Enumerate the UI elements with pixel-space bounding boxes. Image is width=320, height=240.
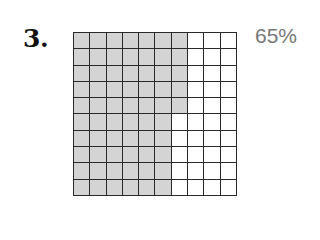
- grid-cell-empty: [172, 180, 188, 196]
- grid-cell-shaded: [155, 180, 171, 196]
- grid-cell-shaded: [139, 147, 155, 163]
- grid-cell-empty: [204, 49, 220, 65]
- grid-cell-empty: [221, 98, 237, 114]
- grid-cell-empty: [204, 66, 220, 82]
- grid-cell-empty: [172, 114, 188, 130]
- grid-cell-shaded: [90, 180, 106, 196]
- grid-cell-shaded: [139, 131, 155, 147]
- grid-cell-shaded: [90, 82, 106, 98]
- grid-cell-shaded: [139, 163, 155, 179]
- grid-cell-empty: [188, 163, 204, 179]
- grid-cell-shaded: [74, 180, 90, 196]
- grid-cell-shaded: [123, 180, 139, 196]
- grid-cell-shaded: [74, 163, 90, 179]
- grid-cell-shaded: [90, 49, 106, 65]
- grid-cell-empty: [221, 180, 237, 196]
- grid-cell-shaded: [74, 66, 90, 82]
- grid-cell-shaded: [139, 98, 155, 114]
- grid-cell-shaded: [139, 49, 155, 65]
- grid-cell-shaded: [107, 114, 123, 130]
- grid-cell-shaded: [107, 82, 123, 98]
- grid-cell-empty: [188, 180, 204, 196]
- grid-cell-shaded: [90, 98, 106, 114]
- grid-cell-shaded: [155, 49, 171, 65]
- grid-cell-empty: [221, 33, 237, 49]
- grid-cell-empty: [188, 82, 204, 98]
- grid-cell-shaded: [155, 147, 171, 163]
- grid-cell-shaded: [74, 114, 90, 130]
- grid-cell-empty: [221, 147, 237, 163]
- grid-cell-shaded: [123, 98, 139, 114]
- grid-cell-shaded: [107, 33, 123, 49]
- grid-cell-empty: [221, 82, 237, 98]
- grid-cell-shaded: [123, 33, 139, 49]
- grid-cell-shaded: [90, 147, 106, 163]
- grid-cell-empty: [221, 114, 237, 130]
- grid-cell-shaded: [123, 147, 139, 163]
- percent-label: 65%: [255, 24, 297, 48]
- grid-cell-shaded: [123, 66, 139, 82]
- grid-cell-shaded: [107, 131, 123, 147]
- grid-cell-shaded: [155, 114, 171, 130]
- grid-cell-empty: [221, 163, 237, 179]
- grid-cell-empty: [188, 49, 204, 65]
- problem-number: 3.: [23, 24, 48, 53]
- grid-cell-shaded: [107, 180, 123, 196]
- grid-cell-empty: [204, 147, 220, 163]
- grid-cell-shaded: [155, 82, 171, 98]
- grid-cell-shaded: [123, 131, 139, 147]
- grid-cell-shaded: [123, 163, 139, 179]
- grid-cell-empty: [204, 114, 220, 130]
- grid-cell-shaded: [123, 82, 139, 98]
- grid-cell-shaded: [155, 131, 171, 147]
- grid-cell-empty: [172, 147, 188, 163]
- grid-cell-empty: [204, 163, 220, 179]
- grid-cell-shaded: [107, 98, 123, 114]
- grid-cell-empty: [188, 33, 204, 49]
- grid-cell-empty: [221, 49, 237, 65]
- grid-cell-shaded: [155, 33, 171, 49]
- grid-cell-empty: [172, 163, 188, 179]
- grid-cell-empty: [204, 82, 220, 98]
- grid-cell-shaded: [155, 98, 171, 114]
- grid-cell-shaded: [90, 114, 106, 130]
- grid-cell-shaded: [172, 82, 188, 98]
- grid-cell-shaded: [90, 66, 106, 82]
- grid-cell-shaded: [74, 33, 90, 49]
- grid-cell-empty: [188, 131, 204, 147]
- grid-cell-shaded: [172, 66, 188, 82]
- grid-cell-empty: [188, 66, 204, 82]
- grid-cell-empty: [221, 131, 237, 147]
- grid-cell-empty: [204, 180, 220, 196]
- grid-cell-shaded: [139, 180, 155, 196]
- grid-cell-shaded: [139, 66, 155, 82]
- grid-cell-shaded: [123, 49, 139, 65]
- grid-cell-empty: [204, 98, 220, 114]
- grid-cell-shaded: [74, 131, 90, 147]
- grid-cell-shaded: [123, 114, 139, 130]
- grid-cell-shaded: [74, 98, 90, 114]
- grid-cell-empty: [204, 33, 220, 49]
- grid-cell-shaded: [107, 147, 123, 163]
- grid-cell-shaded: [139, 114, 155, 130]
- grid-cell-shaded: [155, 163, 171, 179]
- grid-cell-shaded: [90, 33, 106, 49]
- grid-cell-shaded: [172, 98, 188, 114]
- grid-cell-shaded: [74, 49, 90, 65]
- grid-cell-shaded: [107, 66, 123, 82]
- grid-cell-empty: [172, 131, 188, 147]
- grid-cell-shaded: [172, 33, 188, 49]
- grid-cell-shaded: [172, 49, 188, 65]
- grid-cell-empty: [188, 114, 204, 130]
- hundred-grid: [73, 32, 237, 196]
- grid-cell-empty: [221, 66, 237, 82]
- grid-cell-empty: [188, 98, 204, 114]
- grid-cell-shaded: [139, 33, 155, 49]
- grid-cell-shaded: [74, 147, 90, 163]
- grid-cell-empty: [204, 131, 220, 147]
- grid-cell-empty: [188, 147, 204, 163]
- grid-cell-shaded: [90, 163, 106, 179]
- grid-cell-shaded: [155, 66, 171, 82]
- grid-cell-shaded: [74, 82, 90, 98]
- grid-cell-shaded: [107, 163, 123, 179]
